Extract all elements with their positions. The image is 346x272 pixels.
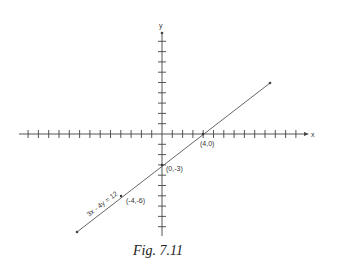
line-end-icon <box>76 231 79 234</box>
y-axis-arrow-icon <box>161 32 164 35</box>
point-label-0-neg3: (0,-3) <box>166 165 183 173</box>
x-axis <box>19 130 307 138</box>
equation-label: 3x - 4y = 12 <box>85 190 119 219</box>
point-label-neg4-neg6: (-4,-6) <box>126 197 145 205</box>
point-marker <box>120 195 122 197</box>
point-label-4-0: (4,0) <box>200 140 214 148</box>
point-marker <box>202 133 204 135</box>
x-axis-arrow-icon <box>304 132 309 136</box>
graph-line <box>77 83 270 232</box>
y-axis-label: y <box>159 22 163 30</box>
x-axis-label: x <box>311 131 315 138</box>
point-marker <box>161 164 163 166</box>
line-end-icon <box>269 82 272 85</box>
y-axis <box>158 33 166 236</box>
figure-caption: Fig. 7.11 <box>0 243 316 259</box>
graph: x y (4,0) (0,-3) (-4,-6) 3x - 4y = 12 <box>0 0 346 272</box>
